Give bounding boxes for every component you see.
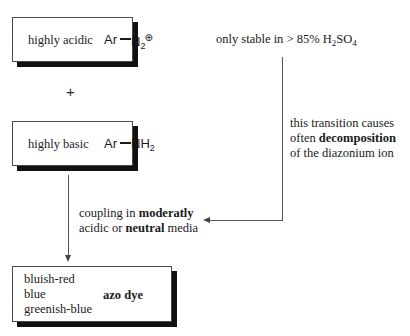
- decomposition-elbow-arrowhead-icon: [203, 217, 210, 223]
- decomposition-note-bold: decomposition: [319, 131, 396, 145]
- stability-note-text: only stable in > 85% H: [216, 32, 332, 46]
- amine-bond-icon: [120, 142, 131, 144]
- amine-subscript: 2: [150, 143, 155, 153]
- diazonium-positive-charge-icon: ⊕: [144, 32, 152, 43]
- coupling-note-suffix-2: media: [164, 221, 198, 235]
- amine-aryl-label: Ar: [104, 136, 117, 151]
- product-color-3: greenish-blue: [24, 302, 92, 317]
- product-label: azo dye: [103, 289, 143, 302]
- coupling-note-bold-1: moderatly: [139, 206, 194, 220]
- coupling-note-prefix-1: coupling in: [79, 206, 139, 220]
- decomposition-elbow-horizontal: [210, 220, 283, 221]
- coupling-note-prefix-2: acidic or: [79, 221, 126, 235]
- diazonium-formula: Ar: [104, 33, 117, 46]
- amine-nh-label: NH: [131, 136, 150, 151]
- decomposition-note-prefix: often: [290, 131, 319, 145]
- decomposition-elbow-vertical: [282, 57, 283, 220]
- coupling-note-line-2: acidic or neutral media: [79, 221, 198, 236]
- plus-symbol: +: [66, 84, 75, 99]
- decomposition-note-line-2: often decomposition: [290, 131, 396, 146]
- amine-phase-label: highly basic: [28, 138, 89, 151]
- product-color-2: blue: [24, 287, 46, 302]
- stability-note-sub-2: 4: [352, 38, 357, 48]
- reaction-arrow-shaft: [68, 175, 69, 255]
- product-color-1: bluish-red: [24, 272, 75, 287]
- diazonium-phase-label: highly acidic: [28, 34, 93, 47]
- decomposition-note-line-1: this transition causes: [290, 116, 394, 131]
- coupling-note-line-1: coupling in moderatly: [79, 206, 194, 221]
- diazonium-group: N2⊕: [131, 33, 153, 51]
- diazonium-aryl-label: Ar: [104, 32, 117, 47]
- reaction-arrow-head-icon: [65, 255, 71, 262]
- coupling-note-bold-2: neutral: [126, 221, 165, 235]
- decomposition-note-line-3: of the diazonium ion: [290, 146, 394, 161]
- decomposition-note-text-1: this transition causes: [290, 116, 394, 130]
- reaction-diagram: highly acidic Ar N2⊕ + highly basic Ar N…: [0, 0, 410, 336]
- amine-group: NH2: [131, 137, 155, 153]
- decomposition-note-text-3: of the diazonium ion: [290, 146, 394, 160]
- diazonium-bond-icon: [120, 38, 131, 40]
- stability-note-text-mid: SO: [336, 32, 352, 46]
- diazonium-n-label: N: [131, 34, 140, 49]
- amine-formula: Ar: [104, 137, 117, 150]
- stability-note: only stable in > 85% H2SO4: [216, 32, 357, 51]
